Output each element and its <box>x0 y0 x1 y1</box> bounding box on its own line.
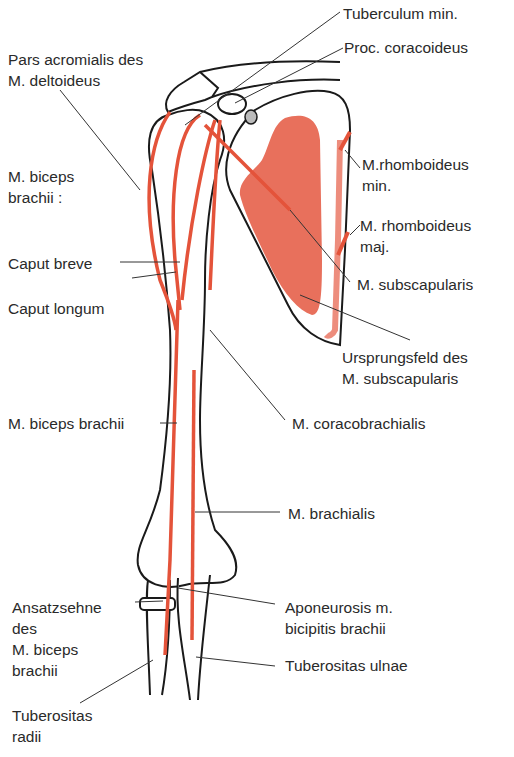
label-caput-breve: Caput breve <box>8 254 92 273</box>
coracoid-process <box>218 94 246 114</box>
label-brachialis: M. brachialis <box>288 504 375 523</box>
label-ansatzsehne-3: M. biceps <box>12 640 78 659</box>
coracoid-tip <box>245 110 257 124</box>
acromion <box>166 72 218 112</box>
label-rhomboideus-maj-2: maj. <box>360 237 389 256</box>
label-rhomboideus-min-2: min. <box>362 176 391 195</box>
label-pars-acromialis-2: M. deltoideus <box>8 71 100 90</box>
label-ansatzsehne-2: des <box>12 619 37 638</box>
label-ansatzsehne-1: Ansatzsehne <box>12 598 102 617</box>
label-rhomboideus-min-1: M.rhomboideus <box>362 155 469 174</box>
label-biceps-2: brachii : <box>8 188 62 207</box>
label-aponeurosis-1: Aponeurosis m. <box>285 598 393 617</box>
label-tuberositas-ulnae: Tuberositas ulnae <box>285 656 408 675</box>
label-tuberculum-min: Tuberculum min. <box>343 4 458 23</box>
label-biceps-brachii: M. biceps brachii <box>8 414 124 433</box>
humerus <box>138 110 237 587</box>
label-pars-acromialis-1: Pars acromialis des <box>8 50 143 69</box>
label-caput-longum: Caput longum <box>8 299 105 318</box>
label-ursprungsfeld-1: Ursprungsfeld des <box>342 348 468 367</box>
forearm-bones <box>140 575 210 700</box>
label-proc-coracoideus: Proc. coracoideus <box>344 38 468 57</box>
label-coracobrachialis: M. coracobrachialis <box>292 414 426 433</box>
label-tuberositas-radii-1: Tuberositas <box>12 706 92 725</box>
label-aponeurosis-2: bicipitis brachii <box>285 619 386 638</box>
label-rhomboideus-maj-1: M. rhomboideus <box>360 216 471 235</box>
label-tuberositas-radii-2: radii <box>12 727 41 746</box>
label-biceps-1: M. biceps <box>8 167 74 186</box>
label-subscapularis: M. subscapularis <box>357 275 473 294</box>
label-ursprungsfeld-2: M. subscapularis <box>342 369 458 388</box>
label-ansatzsehne-4: brachii <box>12 661 58 680</box>
